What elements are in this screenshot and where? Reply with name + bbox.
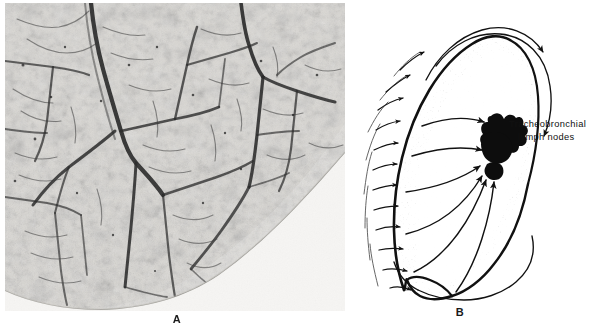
tracheobronchial-lymph-nodes-label: Tracheobronchial lymph nodes [509,118,601,143]
panel-b-diagram [360,4,603,304]
label-line-1: Tracheobronchial [509,119,586,129]
panel-b-image [360,4,603,304]
label-line-2: lymph nodes [509,131,601,144]
panel-a-photomicrograph [5,3,345,311]
panel-a-caption: A [157,313,197,325]
panel-b-caption: B [440,306,480,318]
figure-root: A [0,0,603,332]
panel-a-image [5,3,345,311]
